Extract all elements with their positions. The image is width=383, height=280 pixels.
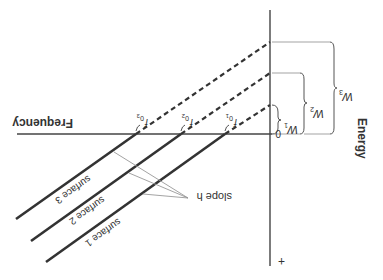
photoelectric-diagram: Frequency Energy 0 + f 0 1 f 0 2 f 0 3 W… <box>0 0 383 280</box>
energy-axis-label: Energy <box>355 118 369 159</box>
slope-leader-2 <box>129 173 188 198</box>
w2-label: W 2 <box>310 106 324 120</box>
slope-leader-1 <box>143 194 188 198</box>
w3-brace <box>330 42 337 134</box>
f01-tick <box>225 125 229 131</box>
svg-text:1: 1 <box>284 122 288 129</box>
svg-text:1: 1 <box>225 113 229 119</box>
svg-text:3: 3 <box>339 89 343 96</box>
w2-brace <box>300 73 307 134</box>
f02-tick <box>181 125 185 131</box>
svg-text:2: 2 <box>310 106 314 113</box>
f01-label: f 0 1 <box>225 113 237 128</box>
f03-label: f 0 3 <box>136 113 148 128</box>
svg-text:2: 2 <box>181 113 185 119</box>
f02-label: f 0 2 <box>181 113 193 128</box>
surface-2-extrapolation <box>181 73 270 134</box>
positive-marker: + <box>278 254 285 268</box>
f03-tick <box>136 125 140 131</box>
frequency-axis-label: Frequency <box>12 116 73 130</box>
slope-label: slope h <box>197 191 232 203</box>
surface-3-line <box>16 134 136 219</box>
origin-label: 0 <box>275 128 281 139</box>
w3-label: W 3 <box>339 89 353 103</box>
svg-text:3: 3 <box>136 113 140 119</box>
